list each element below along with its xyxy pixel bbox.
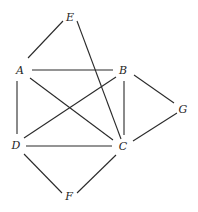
node-b: B [118, 65, 128, 76]
node-g: G [178, 104, 189, 115]
edge-e-c [77, 21, 121, 139]
edge-b-g [134, 75, 174, 103]
edge-d-f [24, 154, 62, 193]
edge-f-c [77, 155, 116, 193]
node-c: C [118, 141, 128, 152]
edges-group [17, 21, 177, 193]
node-a: A [15, 65, 25, 76]
graph-diagram [0, 0, 198, 212]
node-e: E [65, 12, 75, 23]
node-f: F [64, 191, 74, 202]
edge-e-a [28, 21, 63, 58]
edge-b-d [24, 77, 116, 138]
edge-g-c [133, 113, 177, 141]
node-d: D [11, 140, 22, 151]
